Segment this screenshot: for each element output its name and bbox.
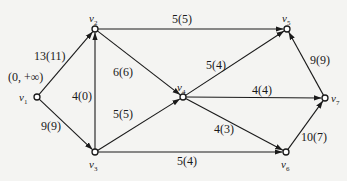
node-label-index: 1 bbox=[24, 98, 28, 106]
edge-label-v6-v7: 10(7) bbox=[301, 131, 327, 143]
node-label-v6: v6 bbox=[281, 159, 289, 173]
edge-label-v1-v3: 9(9) bbox=[41, 120, 61, 132]
edge-v1-v2 bbox=[39, 32, 93, 95]
node-v7 bbox=[322, 95, 328, 101]
node-label-index: 2 bbox=[94, 19, 98, 27]
node-label-v4: v4 bbox=[177, 82, 185, 96]
edge-label-v3-v2: 4(0) bbox=[72, 90, 92, 102]
edge-v2-v4 bbox=[97, 31, 180, 95]
edge-v3-v4 bbox=[98, 99, 180, 151]
node-label-v3: v3 bbox=[89, 159, 97, 173]
edge-v4-v6 bbox=[186, 98, 283, 150]
edge-label-v4-v6: 4(3) bbox=[214, 123, 234, 135]
node-label-v5: v5 bbox=[282, 13, 290, 27]
flow-network-diagram bbox=[0, 0, 347, 181]
node-label-v7: v7 bbox=[331, 93, 339, 107]
edge-label-v3-v6: 5(4) bbox=[177, 155, 197, 167]
edge-label-v1-v2: 13(11) bbox=[34, 50, 66, 62]
source-label: (0, +∞) bbox=[8, 71, 43, 83]
node-label-v2: v2 bbox=[89, 13, 97, 27]
edge-label-v2-v4: 6(6) bbox=[113, 66, 133, 78]
node-v1 bbox=[34, 94, 40, 100]
edge-label-v2-v5: 5(5) bbox=[172, 13, 192, 25]
node-v3 bbox=[92, 149, 98, 155]
node-label-index: 4 bbox=[182, 88, 186, 96]
edge-label-v7-v5: 9(9) bbox=[310, 54, 330, 66]
node-label-index: 6 bbox=[286, 165, 290, 173]
node-label-index: 7 bbox=[336, 99, 340, 107]
node-label-index: 5 bbox=[287, 19, 291, 27]
edge-v4-v7 bbox=[186, 97, 322, 98]
edge-label-v4-v5: 5(4) bbox=[206, 59, 226, 71]
edge-label-v4-v7: 4(4) bbox=[252, 84, 272, 96]
node-label-v1: v1 bbox=[19, 92, 27, 106]
node-label-index: 3 bbox=[94, 165, 98, 173]
edge-label-v3-v4: 5(5) bbox=[113, 108, 133, 120]
node-v6 bbox=[283, 149, 289, 155]
